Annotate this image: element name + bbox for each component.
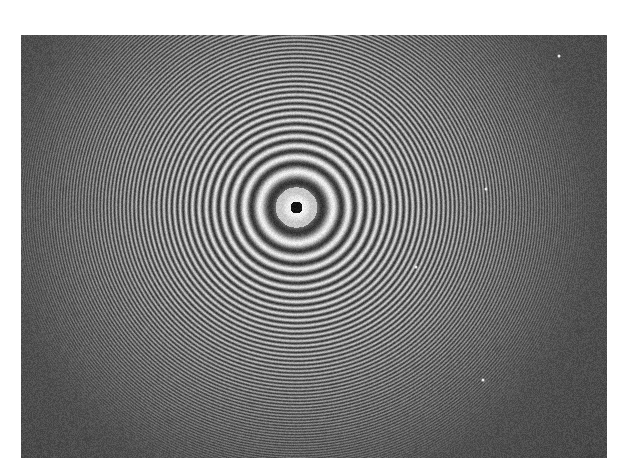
interference-rings-image: [21, 35, 607, 458]
fringe-photograph: [21, 35, 607, 458]
